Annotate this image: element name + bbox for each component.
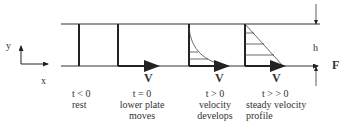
force-label: F <box>332 60 339 71</box>
stage-1-label: t < 0rest <box>72 88 90 110</box>
stage-2-label: t = 0lower platemoves <box>117 88 167 121</box>
y-axis-label: y <box>6 40 11 51</box>
axes-icon <box>21 46 48 64</box>
stage-3-label: t > 0velocitydevelops <box>190 88 240 121</box>
velocity-label: V <box>215 73 224 84</box>
x-axis-label: x <box>41 75 46 86</box>
gap-label: h <box>313 42 318 53</box>
velocity-label: V <box>144 73 153 84</box>
velocity-label: V <box>272 73 281 84</box>
stage-4-label: t > > 0steady velocityprofile <box>246 88 316 121</box>
